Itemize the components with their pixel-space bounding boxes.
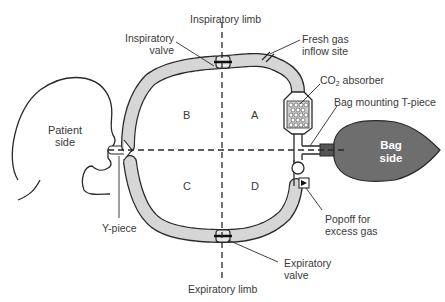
fresh-gas-inflow-label: Fresh gas inflow site (302, 33, 349, 57)
fresh-gas-leader (270, 40, 300, 54)
expiratory-valve-label: Expiratory valve (284, 257, 331, 281)
popoff-label: Popoff for excess gas (325, 213, 378, 237)
y-piece-label: Y-piece (102, 222, 137, 234)
bag-mounting-label: Bag mounting T-piece (334, 96, 436, 108)
bag-mounting-leader (310, 106, 337, 146)
expiratory-valve-leader (228, 240, 278, 262)
inspiratory-valve-icon (214, 56, 232, 68)
inspiratory-valve-label: Inspiratory valve (122, 32, 174, 56)
quadrant-c: C (183, 180, 191, 192)
inspiratory-limb-label: Inspiratory limb (190, 13, 261, 25)
co2-absorber-label: CO2 absorber (320, 74, 384, 90)
quadrant-d: D (251, 180, 259, 192)
popoff-valve-icon (299, 178, 309, 188)
quadrant-b: B (183, 109, 190, 121)
patient-side-label: Patient side (45, 124, 85, 148)
quadrant-a: A (251, 109, 258, 121)
popoff-leader (306, 188, 322, 210)
expiratory-limb-label: Expiratory limb (188, 283, 257, 295)
bag-side-label: Bag side (368, 139, 414, 165)
bag-mounting-t-piece (292, 144, 334, 174)
